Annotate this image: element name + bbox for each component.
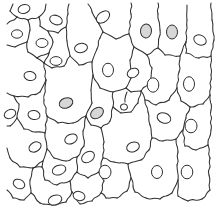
cell-wall <box>64 56 70 66</box>
cell-wall <box>91 75 93 90</box>
cell-wall <box>43 149 47 161</box>
cell-wall <box>199 56 211 58</box>
cell-q-nucleus <box>58 96 75 110</box>
cell-wall <box>10 11 17 17</box>
cell-wall <box>88 4 92 12</box>
cell-wall <box>73 116 86 123</box>
cell-wall <box>77 172 88 178</box>
cell-wall <box>42 167 45 180</box>
cell-wall <box>52 66 64 68</box>
cell-wall <box>28 92 40 97</box>
cell-wall <box>17 104 19 118</box>
cell-o-nucleus <box>3 108 18 121</box>
cell-wall <box>44 63 46 80</box>
cell-wall <box>177 88 181 101</box>
cell-wall <box>163 139 176 141</box>
cell-q2-nucleus <box>63 132 79 146</box>
cell-ad-nucleus <box>72 190 86 202</box>
cell-wall <box>92 49 97 62</box>
cell-wall <box>45 4 46 10</box>
cell-wall <box>92 193 101 201</box>
cell-wall <box>10 118 17 126</box>
cell-wall <box>7 93 14 96</box>
cell-v-nucleus <box>79 149 96 165</box>
cell-u-nucleus <box>27 140 43 154</box>
cell-wall <box>141 91 145 100</box>
cell-i-nucleus <box>74 42 88 53</box>
cell-wall <box>210 75 212 95</box>
cell-ab-nucleus <box>152 166 163 179</box>
cell-wall <box>134 47 147 55</box>
cell-wall <box>177 72 179 88</box>
cell-wall <box>77 157 78 172</box>
cell-wall <box>116 34 129 39</box>
cell-wall <box>68 4 69 14</box>
cell-c-nucleus <box>94 8 112 25</box>
cell-wall <box>150 125 152 138</box>
cell-wall <box>185 146 196 150</box>
cell-wall <box>14 96 19 104</box>
cell-wall <box>210 56 211 75</box>
cell-h-nucleus <box>36 39 48 48</box>
cell-wall <box>24 193 31 200</box>
cell-wall <box>141 150 149 160</box>
cell-wall <box>114 162 128 164</box>
cell-wall <box>20 167 33 168</box>
cell-z-nucleus <box>12 177 27 190</box>
cell-l-nucleus <box>126 66 141 79</box>
cell-wall <box>45 116 47 133</box>
cell-wall <box>211 40 214 56</box>
cell-wall <box>92 62 93 75</box>
cell-wall <box>7 190 13 198</box>
cell-wall <box>67 41 70 56</box>
cell-g-nucleus <box>12 30 23 38</box>
cell-wall <box>101 128 104 142</box>
cell-wall <box>58 122 73 123</box>
cell-s-nucleus <box>156 111 173 125</box>
cell-wall <box>101 193 106 198</box>
cell-wall <box>40 26 48 31</box>
cell-wall <box>66 14 68 27</box>
cell-wall <box>80 201 92 204</box>
cell-wall <box>176 139 178 152</box>
cell-wall <box>147 55 152 68</box>
cell-wall <box>110 107 113 121</box>
cell-f-nucleus <box>192 33 208 47</box>
cell-ac-nucleus <box>181 165 193 179</box>
cell-wall <box>45 180 57 185</box>
cell-b-nucleus <box>48 13 63 26</box>
cell-wall <box>145 100 148 112</box>
cell-wall <box>131 103 138 112</box>
cell-wall <box>158 14 160 30</box>
cell-wall <box>13 198 24 200</box>
cell-wall <box>83 116 86 131</box>
cell-wall <box>39 17 40 26</box>
cell-e-nucleus <box>167 25 178 39</box>
cell-wall <box>30 180 31 193</box>
cell-wall <box>157 3 158 14</box>
cell-wall <box>17 17 28 20</box>
cell-wall <box>99 24 103 32</box>
cell-wall <box>37 58 44 63</box>
cell-j-nucleus <box>23 71 36 82</box>
cell-h2-nucleus <box>50 57 62 66</box>
cell-wall <box>101 181 104 193</box>
cell-wall <box>39 10 45 17</box>
cell-wall <box>113 107 121 113</box>
cell-m-nucleus <box>147 78 159 92</box>
cell-wall <box>126 78 131 88</box>
cell-wall <box>79 62 92 65</box>
cell-wall <box>190 104 203 107</box>
cell-wall <box>113 88 126 92</box>
cell-wall <box>146 198 160 199</box>
cell-wall <box>165 55 180 57</box>
cell-wall <box>130 47 134 60</box>
cell-wall <box>88 172 99 178</box>
cell-wall <box>48 31 58 33</box>
cell-wall <box>10 4 13 11</box>
cell-wall <box>145 100 156 105</box>
cell-n-nucleus <box>184 77 195 92</box>
cell-wall <box>15 42 27 47</box>
cell-wall <box>103 142 104 158</box>
cell-wall <box>36 132 45 133</box>
